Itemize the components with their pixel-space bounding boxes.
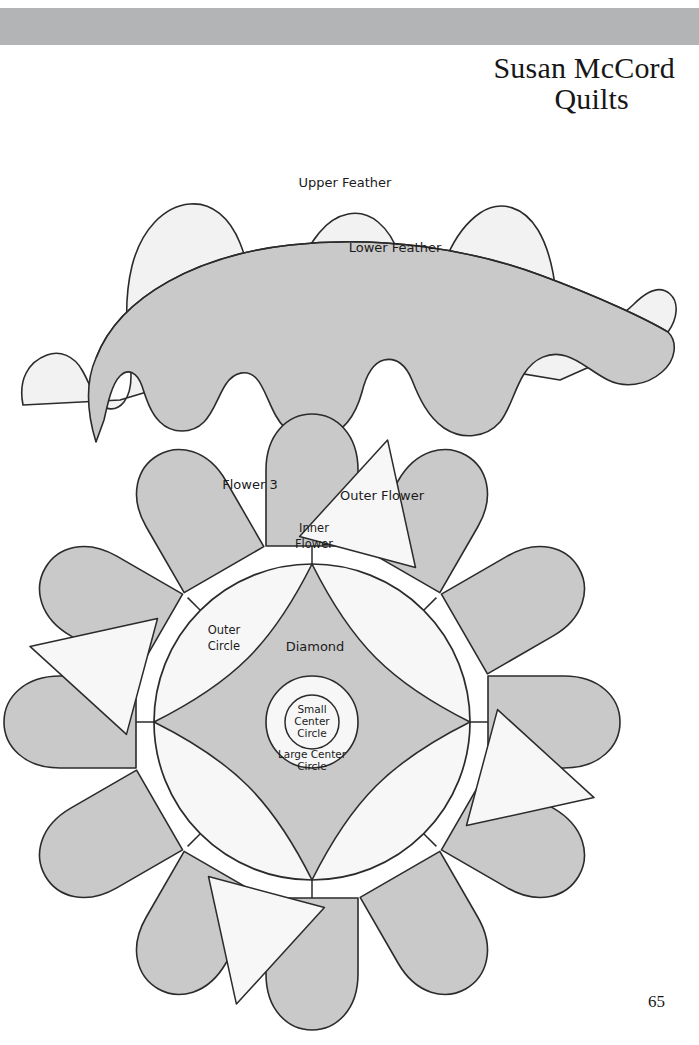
petal	[118, 432, 264, 592]
inner-flower-label-line2: Flower	[295, 537, 333, 551]
large-center-circle-label-line1: Large Center	[278, 748, 347, 760]
outer-circle-label-line1: Outer	[208, 623, 241, 637]
upper-feather-label: Upper Feather	[299, 175, 393, 190]
page-canvas: Susan McCord Quilts Upper Feather Lower …	[0, 0, 699, 1045]
petal	[360, 851, 506, 1011]
outer-flower-label: Outer Flower	[340, 488, 425, 503]
large-center-circle-label-line2: Circle	[297, 760, 327, 772]
flower3-label: Flower 3	[222, 477, 277, 492]
feather-template-diagram: Upper Feather Lower Feather	[0, 80, 699, 440]
petal	[22, 770, 182, 916]
small-center-circle-label-line3: Circle	[297, 727, 327, 739]
page-top-banner	[0, 8, 699, 45]
flower-template-diagram: Flower 3 Outer Flower Inner Flower Outer…	[0, 430, 699, 1030]
inner-flower-label-line1: Inner	[299, 521, 329, 535]
page-number: 65	[648, 992, 665, 1012]
small-center-circle-label-line2: Center	[294, 715, 330, 727]
petal	[441, 528, 601, 674]
small-center-circle-label-line1: Small	[297, 703, 326, 715]
diamond-label: Diamond	[286, 639, 345, 654]
outer-circle-label-line2: Circle	[208, 639, 240, 653]
lower-feather-label: Lower Feather	[349, 240, 442, 255]
